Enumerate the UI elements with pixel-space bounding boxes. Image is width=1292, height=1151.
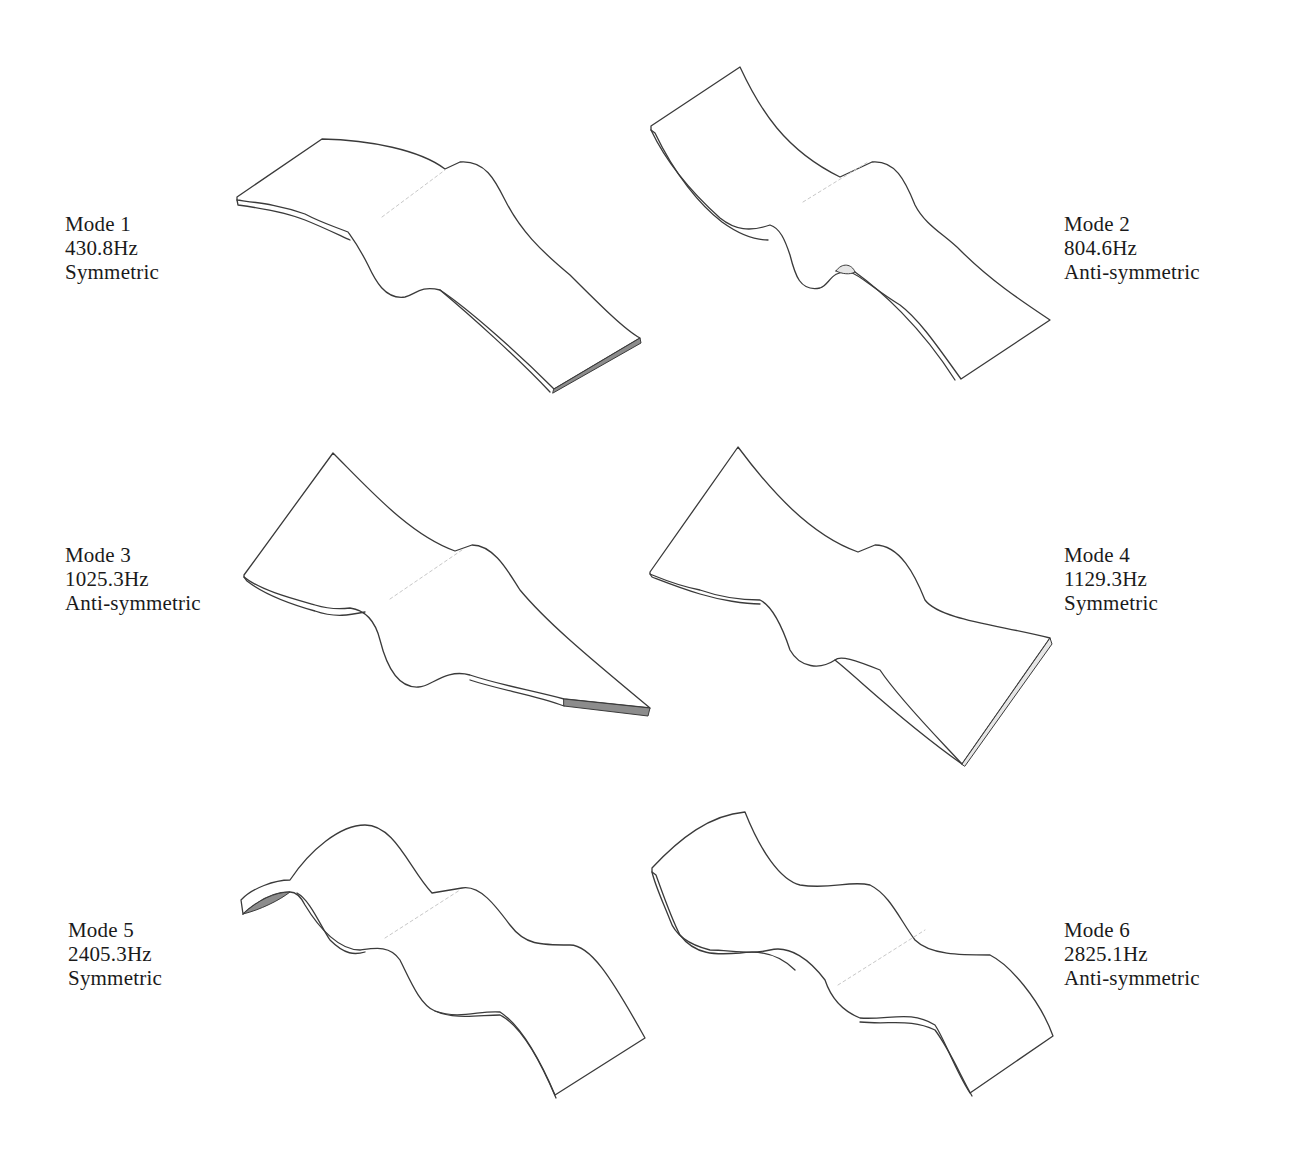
mode-1-shape xyxy=(237,139,641,393)
mode-3-shape xyxy=(244,453,650,716)
mode-shapes-figure xyxy=(0,0,1292,1151)
mode-6-shape xyxy=(652,812,1053,1096)
mode-4-shape xyxy=(650,447,1052,766)
mode-5-shape xyxy=(241,825,645,1098)
mode-2-shape xyxy=(651,67,1050,380)
